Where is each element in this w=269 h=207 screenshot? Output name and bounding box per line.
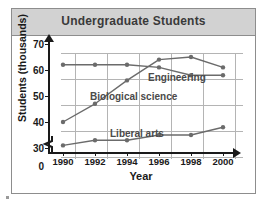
data-point xyxy=(93,63,97,67)
data-point xyxy=(93,102,97,106)
data-point xyxy=(221,73,225,77)
series-label-biological-science: Biological science xyxy=(90,91,177,102)
data-point xyxy=(61,120,65,124)
data-point xyxy=(221,65,225,69)
series-label-engineering: Engineering xyxy=(148,72,206,83)
data-point xyxy=(61,143,65,147)
data-point xyxy=(93,138,97,142)
data-point xyxy=(61,63,65,67)
series-label-liberal-arts: Liberal arts xyxy=(110,128,164,139)
data-point xyxy=(221,125,225,129)
data-point xyxy=(157,57,161,61)
data-point xyxy=(189,55,193,59)
page-speck xyxy=(6,196,9,199)
chart-figure: Undergraduate Students 70 60 50 xyxy=(0,0,269,207)
series-lines xyxy=(0,0,269,207)
data-point xyxy=(157,65,161,69)
data-point xyxy=(189,133,193,137)
data-point xyxy=(125,78,129,82)
data-point xyxy=(125,63,129,67)
